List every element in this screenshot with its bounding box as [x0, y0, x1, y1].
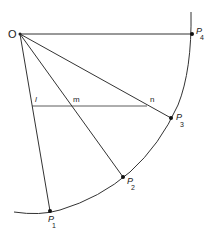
- geometry-diagram: O l m n P 4 P 3 P 2 P 1: [0, 0, 213, 237]
- point-O: [19, 33, 22, 36]
- label-P4-sub: 4: [200, 34, 204, 41]
- line-O-P2: [20, 34, 123, 177]
- circular-arc: [14, 12, 191, 214]
- point-P3: [169, 116, 173, 120]
- label-P2-sub: 2: [131, 184, 135, 191]
- label-O: O: [8, 28, 17, 40]
- label-l: l: [35, 95, 37, 104]
- point-P1: [48, 209, 52, 213]
- label-P3-sub: 3: [180, 121, 184, 128]
- line-O-P3: [20, 34, 171, 118]
- label-m: m: [73, 95, 80, 104]
- line-O-P1: [20, 34, 50, 211]
- label-P1-sub: 1: [52, 222, 56, 229]
- label-n: n: [150, 95, 154, 104]
- point-P2: [121, 175, 125, 179]
- point-P4: [190, 32, 194, 36]
